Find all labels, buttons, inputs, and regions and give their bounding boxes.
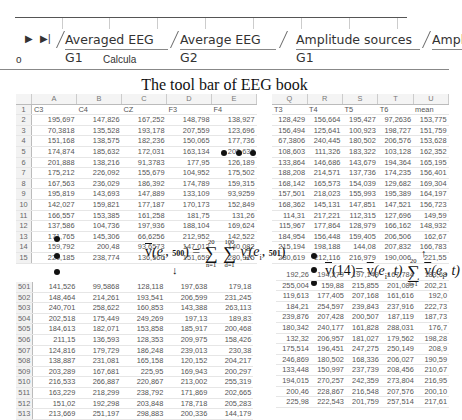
cell[interactable]: 201,888 [32,157,77,168]
cell[interactable]: 226,092 [77,168,122,179]
cell[interactable]: 206,027 [381,354,416,365]
cell[interactable]: 238,774 [77,252,122,263]
cell[interactable]: 147,521 [378,199,413,210]
cell[interactable]: 220,867 [121,377,165,388]
cell[interactable]: 133,448 [276,365,311,376]
cell[interactable]: 148,798 [167,115,212,126]
cell[interactable]: 144,179 [209,409,253,420]
cell[interactable]: 146,686 [307,157,342,168]
cell[interactable]: 240,445 [307,136,342,147]
cell[interactable]: 218,299 [77,387,121,398]
cell[interactable]: 247,275 [346,344,381,355]
cell[interactable]: 254,597 [311,301,346,312]
cell[interactable]: 194,279 [311,270,346,280]
cell[interactable]: 133,109 [167,189,212,200]
cell[interactable]: 103,128 [378,146,413,157]
cell[interactable]: 133,864 [272,157,307,168]
cell[interactable]: 147,889 [122,189,167,200]
tab-amplitude-sources-g1[interactable]: Amplitude sources G1 [296,31,420,50]
cell[interactable]: 273,804 [381,375,416,386]
row-number[interactable]: 5 [16,146,32,157]
cell[interactable]: 240,701 [33,303,78,314]
cell[interactable]: 174,789 [167,178,212,189]
cell[interactable]: 137,586 [32,221,77,232]
cell[interactable]: 156,723 [413,199,448,210]
cell[interactable]: 120,152 [165,356,209,367]
cell[interactable]: 242,359 [346,375,381,386]
cell[interactable]: 183,322 [342,146,377,157]
cell[interactable]: 204,217 [209,356,253,367]
cell[interactable]: 202,665 [209,387,253,398]
cell[interactable]: 156,448 [307,231,342,242]
cell[interactable]: 185,632 [77,146,122,157]
cell[interactable]: CZ [122,104,167,115]
cell[interactable]: 160,853 [121,303,165,314]
cell[interactable]: 67,3806 [272,136,307,147]
cell[interactable]: 148,464 [33,292,78,303]
column-header[interactable]: E [212,94,257,104]
cell[interactable]: 159,821 [77,199,122,210]
cell[interactable]: 217,221 [307,210,342,221]
cell[interactable]: 177,736 [212,136,257,147]
row-number[interactable]: 3 [16,125,32,136]
cell[interactable]: 104,736 [77,221,122,232]
cell[interactable]: 70,3818 [32,125,77,136]
cell[interactable]: 198,188 [307,242,342,253]
cell[interactable]: 164,197 [413,189,448,200]
cell[interactable]: 255,004 [276,280,311,291]
cell[interactable]: 167,252 [122,115,167,126]
cell[interactable]: 255,319 [209,377,253,388]
cell[interactable]: T6 [378,104,413,115]
cell[interactable]: 168,362 [272,199,307,210]
cell[interactable]: 228,867 [311,386,346,397]
row-number[interactable]: 6 [16,157,32,168]
cell[interactable]: 230,38 [209,345,253,356]
cell[interactable]: 249,269 [121,313,165,324]
cell[interactable]: 168,336 [346,354,381,365]
row-number[interactable]: 506 [16,334,33,345]
cell[interactable]: 246,869 [276,354,311,365]
corner-cell[interactable] [16,94,32,104]
cell[interactable]: 157,501 [272,189,307,200]
cell[interactable]: 162,352 [413,146,448,157]
cell[interactable]: 138,575 [77,136,122,147]
cell[interactable]: 190,59 [416,354,449,365]
cell[interactable]: mean [413,104,448,115]
cell[interactable]: 192,0 [416,291,449,302]
cell[interactable]: 222,73 [416,301,449,312]
cell[interactable]: 119,613 [276,291,311,302]
cell[interactable]: 298,883 [121,409,165,420]
cell[interactable]: 174,874 [32,146,77,157]
cell[interactable]: 200,297 [209,366,253,377]
cell[interactable]: 99,5868 [77,282,121,292]
row-number[interactable]: 7 [16,168,32,179]
cell[interactable]: 176,7 [416,322,449,333]
cell[interactable]: 177,864 [307,221,342,232]
cell[interactable]: 195,427 [342,115,377,126]
cell[interactable]: 167,563 [32,178,77,189]
cell[interactable]: C3 [32,104,77,115]
column-header[interactable]: Q [272,94,307,104]
cell[interactable]: 250,149 [381,344,416,355]
cell[interactable]: 108,603 [272,146,307,157]
row-number[interactable]: 511 [16,387,33,398]
cell[interactable]: 175,502 [212,168,257,179]
cell[interactable]: 149,59 [413,210,448,221]
cell[interactable]: 126,189 [212,157,257,168]
cell[interactable]: 195,389 [378,189,413,200]
cell[interactable]: 200,336 [165,409,209,420]
cell[interactable]: 213,002 [165,377,209,388]
cell[interactable]: F4 [212,104,257,115]
row-number[interactable]: 504 [16,313,33,324]
row-number[interactable]: 512 [16,398,33,409]
cell[interactable]: 239,876 [276,312,311,323]
row-number[interactable]: 513 [16,409,33,420]
cell[interactable]: 178,718 [165,398,209,409]
cell[interactable]: 159,792 [32,242,77,253]
cell[interactable]: 201,759 [346,397,381,408]
cell[interactable]: 166,557 [32,210,77,221]
row-number[interactable]: 8 [16,178,32,189]
cell[interactable]: 200,10 [416,386,449,397]
row-number[interactable]: 9 [16,189,32,200]
cell[interactable]: 207,168 [346,291,381,302]
